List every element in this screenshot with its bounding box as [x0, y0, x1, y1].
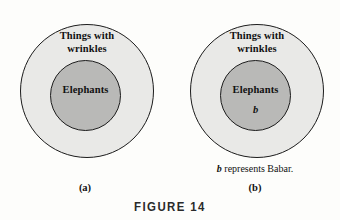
outer-set-label-line2: wrinkles — [20, 43, 154, 56]
venn-panel-a: Things with wrinkles Elephants (a) — [0, 0, 170, 200]
panel-tag-a: (a) — [0, 182, 170, 193]
outer-set-label: Things with wrinkles — [190, 30, 324, 55]
outer-set-label-line1: Things with — [20, 30, 154, 43]
inner-set-label: Elephants — [50, 84, 121, 95]
inner-set-circle-elephants — [220, 60, 291, 131]
panel-tag-b: (b) — [170, 182, 340, 193]
element-marker-b: b — [220, 104, 291, 115]
inner-set-circle-elephants — [50, 60, 121, 131]
element-legend-note: b represents Babar. — [170, 163, 340, 174]
inner-set-label: Elephants — [220, 84, 291, 95]
venn-panel-b: Things with wrinkles Elephants b b repre… — [170, 0, 340, 200]
outer-set-label-line2: wrinkles — [190, 43, 324, 56]
outer-set-label-line1: Things with — [190, 30, 324, 43]
legend-note-text: represents Babar. — [222, 163, 293, 174]
venn-diagram-figure: Things with wrinkles Elephants (a) Thing… — [0, 0, 340, 220]
outer-set-label: Things with wrinkles — [20, 30, 154, 55]
figure-caption: FIGURE 14 — [20, 199, 319, 214]
